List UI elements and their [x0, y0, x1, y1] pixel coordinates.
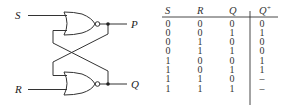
top-inversion-bubble [95, 22, 100, 27]
header-q: Q [229, 5, 237, 16]
r-label: R [14, 83, 22, 95]
p-label: P [130, 18, 138, 30]
truth-table: S R Q Q+ 000000110100011010011011110–111… [162, 4, 278, 105]
diagram-canvas: S R P Q S R Q Q+ 00000011010001101001101… [0, 0, 288, 111]
table-cell: 1 [166, 83, 171, 94]
header-qplus: Q+ [259, 4, 272, 16]
table-cell: – [259, 83, 266, 94]
q-label: Q [131, 78, 139, 90]
table-cell: 1 [198, 83, 203, 94]
header-s: S [165, 5, 171, 16]
p-junction-dot [106, 22, 110, 26]
feedback-p-to-bottom [53, 24, 108, 76]
q-junction-dot [106, 82, 110, 86]
table-cell: 1 [230, 83, 235, 94]
header-r: R [196, 5, 204, 16]
table-rows: 000000110100011010011011110–111– [166, 18, 266, 94]
bottom-nor-gate [64, 72, 95, 95]
bottom-inversion-bubble [95, 82, 100, 87]
top-nor-gate [64, 12, 95, 35]
s-label: S [15, 9, 21, 21]
sr-latch-circuit [28, 12, 127, 95]
